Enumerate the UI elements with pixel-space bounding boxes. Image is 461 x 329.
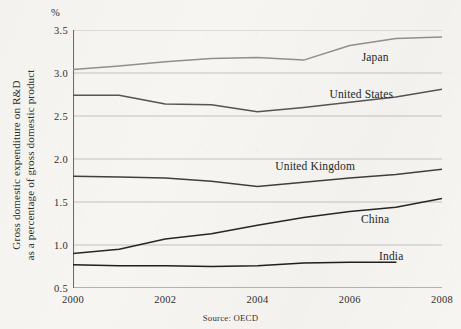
chart-figure: Gross domestic expenditure on R&D as a p… bbox=[0, 0, 461, 329]
y-tick-label: 0.5 bbox=[54, 283, 68, 294]
series-label-united-kingdom: United Kingdom bbox=[275, 160, 355, 172]
y-axis-line bbox=[73, 30, 74, 288]
y-axis-title-line-1: Gross domestic expenditure on R&D bbox=[10, 69, 24, 260]
x-tick-label: 2006 bbox=[339, 294, 361, 305]
series-line-united-kingdom bbox=[73, 169, 442, 186]
x-tick-label: 2004 bbox=[246, 294, 268, 305]
y-axis-title-line-2: as a percentage of gross domestic produc… bbox=[23, 69, 37, 260]
series-line-india bbox=[73, 262, 396, 266]
x-tick-label: 2002 bbox=[154, 294, 176, 305]
series-lines bbox=[73, 37, 442, 267]
series-label-united-states: United States bbox=[329, 88, 393, 100]
y-axis-unit-label: % bbox=[51, 7, 60, 18]
x-tick-label: 2000 bbox=[62, 294, 84, 305]
source-note: Source: OECD bbox=[0, 313, 461, 323]
y-tick-label: 2.0 bbox=[54, 154, 68, 165]
y-tick-label: 2.5 bbox=[54, 111, 68, 122]
series-label-china: China bbox=[361, 213, 389, 225]
series-label-india: India bbox=[379, 250, 403, 262]
y-tick-label: 3.5 bbox=[54, 25, 68, 36]
x-tick-label: 2008 bbox=[431, 294, 453, 305]
y-tick-label: 3.0 bbox=[54, 68, 68, 79]
y-axis-title: Gross domestic expenditure on R&D as a p… bbox=[0, 0, 46, 329]
y-tick-label: 1.5 bbox=[54, 197, 68, 208]
series-label-japan: Japan bbox=[362, 51, 389, 63]
plot-area: 0.51.01.52.02.53.03.5 200020022004200620… bbox=[73, 30, 442, 288]
y-tick-label: 1.0 bbox=[54, 240, 68, 251]
